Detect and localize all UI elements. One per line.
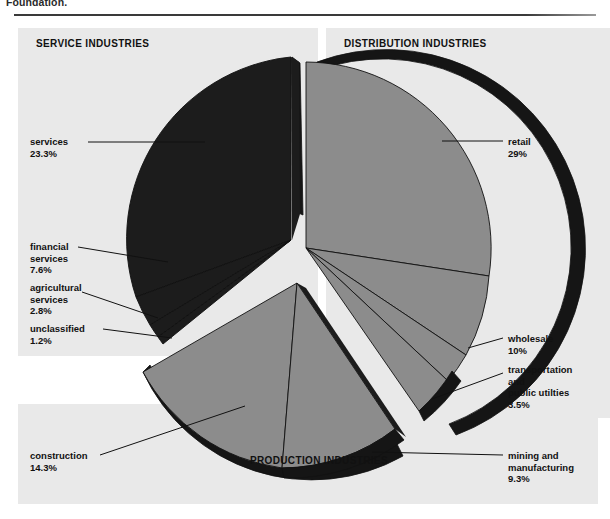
slice-retail xyxy=(306,62,491,276)
slice-services xyxy=(127,57,291,297)
label-construction: construction 14.3% xyxy=(30,450,88,473)
panel-title-service-industries: SERVICE INDUSTRIES xyxy=(36,38,149,49)
label-retail: retail 29% xyxy=(508,136,531,159)
label-mining-manufacturing: mining and manufacturing 9.3% xyxy=(508,450,574,485)
label-services: services 23.3% xyxy=(30,136,68,159)
panel-title-production-industries: PRODUCTION INDUSTRIES xyxy=(250,455,388,466)
slice-service-side-face xyxy=(291,57,300,240)
label-transportation-public-utilities: transportation and public utilties 3.5% xyxy=(508,364,572,410)
panel-title-distribution-industries: DISTRIBUTION INDUSTRIES xyxy=(344,38,487,49)
pie-chart: .sl{stroke:#111;stroke-width:.9;stroke-l… xyxy=(0,0,610,519)
label-wholesale: wholesale 10% xyxy=(508,333,553,356)
label-agricultural-services: agricultural services 2.8% xyxy=(30,282,82,317)
label-financial-services: financial services 7.6% xyxy=(30,241,69,276)
chart-figure: Foundation. .sl{stroke:#111;stroke-width… xyxy=(0,0,610,519)
label-unclassified: unclassified 1.2% xyxy=(30,323,85,346)
